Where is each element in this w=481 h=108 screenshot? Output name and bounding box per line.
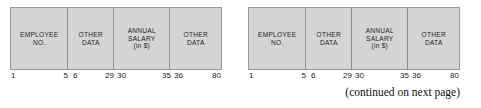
field-other-data-1: OTHER DATA <box>68 8 114 69</box>
field-label-line: DATA <box>82 39 100 46</box>
field-employee-no: EMPLOYEE NO. <box>249 8 306 69</box>
field-label-line: ANNUAL <box>366 27 394 34</box>
field-other-data-1: OTHER DATA <box>306 8 352 69</box>
field-label-line: DATA <box>320 39 338 46</box>
field-label-line: EMPLOYEE <box>258 31 296 38</box>
ruler-tick-end-80: 80 <box>443 71 459 80</box>
ruler-tick-start-30: 30 <box>355 71 364 80</box>
ruler-tick-start-6: 6 <box>311 71 315 80</box>
ruler-tick-start-36: 36 <box>174 71 183 80</box>
field-other-data-2: OTHER DATA <box>408 8 459 69</box>
field-label-line: NO. <box>33 39 45 46</box>
ruler-tick-end-35: 35 <box>155 71 171 80</box>
field-label-line: SALARY <box>128 35 155 42</box>
field-label-line: (in $) <box>133 42 150 49</box>
ruler-tick-start-1: 1 <box>249 71 253 80</box>
field-label-line: SALARY <box>366 35 393 42</box>
ruler-tick-end-80: 80 <box>205 71 221 80</box>
field-label-line: (in $) <box>371 42 388 49</box>
field-label-line: DATA <box>425 39 443 46</box>
ruler-tick-end-29: 29 <box>98 71 114 80</box>
field-label-line: ANNUAL <box>128 27 156 34</box>
ruler-tick-end-5: 5 <box>56 71 68 80</box>
ruler-tick-end-35: 35 <box>393 71 409 80</box>
column-position-ruler: 1 5 6 29 30 35 36 80 <box>248 71 460 85</box>
record-layout-diagram-right: EMPLOYEE NO. OTHER DATA ANNUAL SALARY (i… <box>248 7 460 70</box>
field-employee-no: EMPLOYEE NO. <box>11 8 68 69</box>
field-other-data-2: OTHER DATA <box>170 8 221 69</box>
ruler-tick-start-36: 36 <box>412 71 421 80</box>
record-layout-diagram-left: EMPLOYEE NO. OTHER DATA ANNUAL SALARY (i… <box>10 7 222 70</box>
field-label-line: OTHER <box>422 31 446 38</box>
ruler-tick-start-30: 30 <box>117 71 126 80</box>
ruler-tick-start-6: 6 <box>73 71 77 80</box>
field-label-line: EMPLOYEE <box>20 31 58 38</box>
field-label-line: OTHER <box>317 31 341 38</box>
ruler-tick-start-1: 1 <box>11 71 15 80</box>
record-box: EMPLOYEE NO. OTHER DATA ANNUAL SALARY (i… <box>10 7 222 70</box>
record-box: EMPLOYEE NO. OTHER DATA ANNUAL SALARY (i… <box>248 7 460 70</box>
field-label-line: OTHER <box>184 31 208 38</box>
field-label-line: OTHER <box>79 31 103 38</box>
field-label-line: DATA <box>187 39 205 46</box>
column-position-ruler: 1 5 6 29 30 35 36 80 <box>10 71 222 85</box>
field-annual-salary: ANNUAL SALARY (in $) <box>114 8 170 69</box>
field-label-line: NO. <box>271 39 283 46</box>
ruler-tick-end-5: 5 <box>294 71 306 80</box>
ruler-tick-end-29: 29 <box>336 71 352 80</box>
continued-caption: (continued on next page) <box>248 86 460 98</box>
field-annual-salary: ANNUAL SALARY (in $) <box>352 8 408 69</box>
